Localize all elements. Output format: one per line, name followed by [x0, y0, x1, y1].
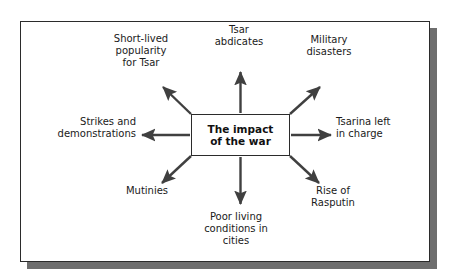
center-node-label: The impact of the war — [208, 123, 274, 148]
node-label-military-disasters: Military disasters — [291, 34, 367, 58]
center-node: The impact of the war — [191, 114, 290, 156]
arrow-up-left-short-lived — [163, 87, 191, 114]
node-label-tsarina-left-in-charge: Tsarina left in charge — [336, 116, 432, 140]
arrow-up-right-military — [290, 87, 320, 114]
diagram-page: The impact of the war Short-lived popula… — [0, 0, 454, 278]
node-label-poor-living-conditions: Poor living conditions in cities — [193, 211, 279, 248]
arrow-down-right-rasputin — [290, 156, 319, 183]
node-label-strikes-and-demonstrations: Strikes and demonstrations — [30, 116, 136, 140]
node-label-mutinies: Mutinies — [112, 185, 182, 197]
node-label-tsar-abdicates: Tsar abdicates — [203, 24, 275, 48]
node-label-rise-of-rasputin: Rise of Rasputin — [296, 185, 370, 209]
node-label-short-lived-popularity: Short-lived popularity for Tsar — [101, 33, 181, 70]
arrow-down-left-mutinies — [162, 156, 191, 183]
